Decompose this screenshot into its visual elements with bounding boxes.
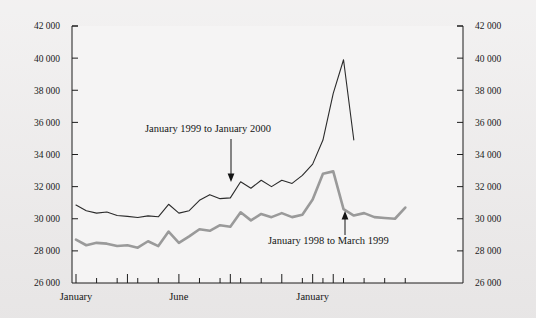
y-axis-right-tick-label: 38 000: [475, 86, 501, 96]
y-axis-right-tick-label: 28 000: [475, 246, 501, 256]
y-axis-right-tick-label: 26 000: [475, 278, 501, 288]
y-axis-left-tick-label: 28 000: [34, 246, 60, 256]
y-axis-left-tick-label: 36 000: [34, 118, 60, 128]
y-axis-right-tick-label: 40 000: [475, 54, 501, 64]
y-axis-left-labels: 26 00028 00030 00032 00034 00036 00038 0…: [34, 21, 60, 288]
y-axis-left-tick-label: 30 000: [34, 214, 60, 224]
y-axis-right-tick-label: 36 000: [475, 118, 501, 128]
y-axis-left-tick-label: 26 000: [34, 278, 60, 288]
x-axis-tick-label: January: [296, 291, 329, 302]
y-axis-right-tick-label: 30 000: [475, 214, 501, 224]
x-axis-tick-label: June: [169, 291, 189, 302]
y-axis-right-labels: 26 00028 00030 00032 00034 00036 00038 0…: [475, 21, 501, 288]
y-axis-right-tick-label: 32 000: [475, 182, 501, 192]
y-axis-right-tick-label: 34 000: [475, 150, 501, 160]
x-axis-tick-label: January: [60, 291, 93, 302]
annotation-label-upper: January 1999 to January 2000: [145, 123, 271, 134]
y-axis-left-tick-label: 34 000: [34, 150, 60, 160]
y-axis-right-tick-label: 42 000: [475, 21, 501, 31]
y-axis-left-tick-label: 40 000: [34, 54, 60, 64]
chart-container: 26 00028 00030 00032 00034 00036 00038 0…: [0, 0, 536, 318]
line-chart: 26 00028 00030 00032 00034 00036 00038 0…: [0, 0, 536, 318]
annotation-label-lower: January 1998 to March 1999: [268, 235, 389, 246]
x-axis-labels: JanuaryJuneJanuary: [60, 291, 330, 302]
y-axis-left-tick-label: 42 000: [34, 21, 60, 31]
y-axis-left-tick-label: 38 000: [34, 86, 60, 96]
y-axis-left-tick-label: 32 000: [34, 182, 60, 192]
